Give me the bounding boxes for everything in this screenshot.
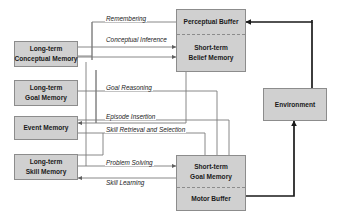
edge-label-goal-reasoning: Goal Reasoning	[105, 84, 153, 91]
box-line-1: Long-term	[30, 157, 63, 167]
box-line-1: Short-term	[194, 162, 228, 172]
box-event-memory[interactable]: Event Memory	[14, 116, 78, 140]
box-line-2: Goal Memory	[190, 172, 232, 182]
box-short-term-goal-memory-motor-buffer[interactable]: Short-term Goal Memory Motor Buffer	[176, 155, 246, 211]
edge-label-remembering: Remembering	[105, 15, 147, 22]
box-long-term-skill-memory[interactable]: Long-term Skill Memory	[14, 154, 78, 180]
box-line-1: Event Memory	[23, 123, 68, 133]
box-line-1: Long-term	[30, 44, 63, 54]
box-line-1: Long-term	[30, 83, 63, 93]
box-long-term-goal-memory[interactable]: Long-term Goal Memory	[14, 80, 78, 106]
section-short-term-goal-memory[interactable]: Short-term Goal Memory	[177, 156, 245, 187]
section-motor-buffer[interactable]: Motor Buffer	[177, 187, 245, 210]
box-line-1: Motor Buffer	[191, 194, 231, 204]
box-line-2: Goal Memory	[25, 93, 67, 103]
section-perceptual-buffer[interactable]: Perceptual Buffer	[177, 10, 245, 34]
edge-label-skill-learning: Skill Learning	[105, 179, 145, 186]
box-line-2: Conceptual Memory	[14, 54, 77, 64]
box-environment[interactable]: Environment	[263, 88, 327, 121]
edge-label-skill-retrieval-and-selection: Skill Retrieval and Selection	[105, 126, 186, 133]
edge-label-episode-insertion: Episode Insertion	[105, 113, 156, 120]
edge-label-problem-solving: Problem Solving	[105, 159, 154, 166]
box-perceptual-buffer-belief-memory[interactable]: Perceptual Buffer Short-term Belief Memo…	[176, 9, 246, 72]
box-line-1: Perceptual Buffer	[184, 17, 239, 27]
architecture-diagram: Long-term Conceptual Memory Long-term Go…	[0, 0, 342, 218]
box-line-2: Skill Memory	[26, 167, 67, 177]
section-short-term-belief-memory[interactable]: Short-term Belief Memory	[177, 34, 245, 71]
box-long-term-conceptual-memory[interactable]: Long-term Conceptual Memory	[14, 41, 78, 67]
box-line-2: Belief Memory	[188, 53, 233, 63]
box-line-1: Short-term	[194, 43, 228, 53]
edge-label-conceptual-inference: Conceptual Inference	[105, 36, 168, 43]
box-line-1: Environment	[275, 100, 315, 110]
